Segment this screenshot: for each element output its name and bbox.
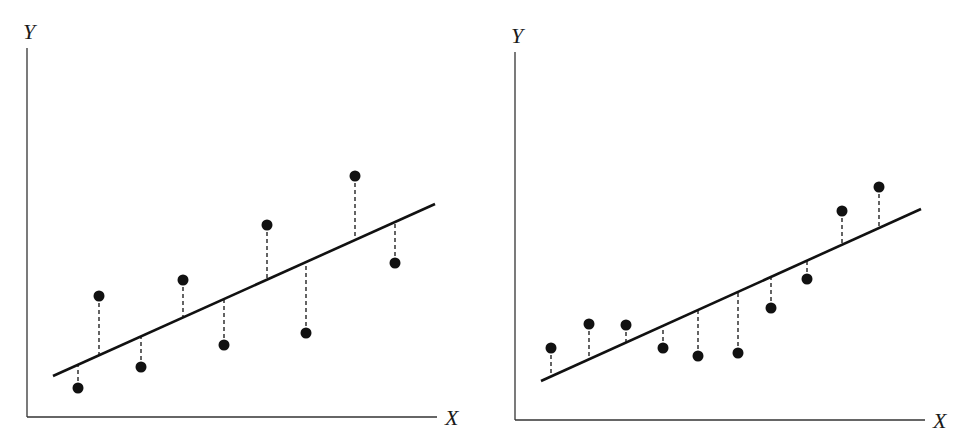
data-point	[73, 383, 84, 394]
data-point	[658, 343, 669, 354]
data-point	[837, 206, 848, 217]
data-point	[546, 343, 557, 354]
data-point	[219, 340, 230, 351]
x-axis-label: X	[932, 408, 948, 433]
regression-line	[541, 209, 921, 381]
data-point	[262, 220, 273, 231]
data-point	[802, 274, 813, 285]
data-point	[766, 303, 777, 314]
data-point	[94, 291, 105, 302]
data-point	[301, 328, 312, 339]
data-point	[693, 351, 704, 362]
figure: YXYX	[0, 0, 964, 439]
x-axis-label: X	[444, 405, 460, 430]
chart-panel-1: YX	[23, 19, 460, 430]
data-point	[178, 275, 189, 286]
data-point	[874, 182, 885, 193]
y-axis-label: Y	[23, 19, 38, 44]
chart-panel-2: YX	[511, 23, 948, 433]
regression-line	[53, 204, 435, 376]
data-point	[350, 171, 361, 182]
data-point	[621, 320, 632, 331]
scatter-plots: YXYX	[0, 0, 964, 439]
data-point	[733, 348, 744, 359]
data-point	[584, 319, 595, 330]
data-point	[136, 362, 147, 373]
data-point	[390, 258, 401, 269]
y-axis-label: Y	[511, 23, 526, 48]
